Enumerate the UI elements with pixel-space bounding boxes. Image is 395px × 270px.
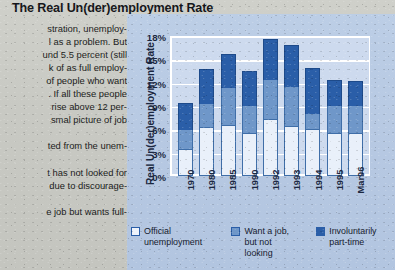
bar-segment	[284, 126, 299, 176]
article-line: und 5.5 percent (still	[0, 48, 127, 61]
x-label-column: Mar96	[346, 178, 367, 226]
bar-segment	[178, 130, 193, 149]
x-axis-tick-label: 1994	[314, 170, 324, 191]
bar-segment	[199, 104, 214, 127]
legend-label: Want a job, but not looking	[244, 226, 289, 259]
article-line-break	[0, 126, 127, 139]
bar-segment	[221, 54, 236, 88]
bar-segment	[348, 106, 363, 133]
y-axis-tick-label: 9%	[152, 102, 170, 113]
y-axis-tick-label: 15%	[147, 55, 170, 66]
bar-segment	[242, 106, 257, 133]
article-line: due to discourage-	[0, 179, 127, 192]
chart-panel: Real Un(der)employment Rate 0%3%6%9%12%1…	[127, 14, 395, 270]
legend-item: Official unemployment	[129, 226, 231, 270]
article-line: k of as full employ-	[0, 61, 127, 74]
bar-segment	[327, 80, 342, 106]
y-axis-tick-label: 18%	[147, 32, 170, 43]
x-axis-tick-label: 1980	[207, 170, 217, 191]
bar-column	[302, 37, 323, 176]
legend-item: Want a job, but not looking	[231, 226, 316, 270]
y-axis-tick-label: 6%	[152, 125, 170, 136]
article-line: l as a problem. But	[0, 35, 127, 48]
bar-segment	[221, 88, 236, 125]
stacked-bar	[327, 80, 342, 176]
stacked-bar	[178, 103, 193, 176]
stacked-bar	[242, 71, 257, 176]
stacked-bar	[284, 45, 299, 176]
article-line: smal picture of job	[0, 113, 127, 126]
x-label-column: 1994	[303, 178, 324, 226]
legend-swatch	[316, 227, 325, 236]
page-title: The Real Un(der)employment Rate	[12, 1, 213, 15]
bar-segment	[263, 119, 278, 176]
x-label-column: 1993	[282, 178, 303, 226]
bar-segment	[284, 45, 299, 87]
legend-label: Involuntarily part-time	[329, 226, 376, 248]
article-line: e job but wants full-	[0, 205, 127, 218]
bar-segment	[199, 127, 214, 176]
article-line-break	[0, 192, 127, 205]
x-axis-tick-label: 1990	[250, 170, 260, 191]
bar-column	[196, 37, 217, 176]
y-axis-tick-label: 0%	[152, 172, 170, 183]
legend-swatch	[131, 227, 140, 236]
x-axis-tick-label: 1993	[292, 170, 302, 191]
chart-bars	[170, 37, 369, 176]
bar-column	[324, 37, 345, 176]
bar-column	[260, 37, 281, 176]
chart-legend: Official unemploymentWant a job, but not…	[129, 226, 395, 270]
x-label-column: 1992	[260, 178, 281, 226]
x-label-column: 1980	[196, 178, 217, 226]
bar-segment	[221, 125, 236, 176]
bar-segment	[263, 39, 278, 80]
x-axis-tick-label: Mar96	[356, 167, 366, 194]
bar-column	[239, 37, 260, 176]
x-label-column: 1995	[324, 178, 345, 226]
article-line: of people who want	[0, 74, 127, 87]
bar-column	[281, 37, 302, 176]
legend-item: Involuntarily part-time	[316, 226, 395, 270]
bar-segment	[348, 81, 363, 106]
x-axis-tick-label: 1995	[335, 170, 345, 191]
stacked-bar	[263, 39, 278, 176]
bar-segment	[199, 69, 214, 103]
legend-swatch	[231, 227, 240, 236]
article-line: rise above 12 per-	[0, 100, 127, 113]
bar-column	[345, 37, 366, 176]
legend-label: Official unemployment	[144, 226, 202, 248]
x-axis-tick-label: 1970	[186, 170, 196, 191]
stacked-bar	[305, 68, 320, 176]
bar-segment	[242, 71, 257, 106]
y-axis-tick-label: 3%	[152, 148, 170, 159]
bar-segment	[305, 114, 320, 130]
article-line: t has not looked for	[0, 166, 127, 179]
stacked-bar	[348, 81, 363, 176]
bar-column	[217, 37, 238, 176]
bar-segment	[327, 106, 342, 133]
x-label-column: 1990	[239, 178, 260, 226]
bar-column	[175, 37, 196, 176]
y-axis-tick-label: 12%	[147, 78, 170, 89]
article-text-column: stration, unemploy-l as a problem. Butun…	[0, 22, 127, 218]
chart-plot-area: 0%3%6%9%12%15%18%	[170, 36, 370, 176]
x-label-column: 1970	[175, 178, 196, 226]
article-line: ted from the unem-	[0, 139, 127, 152]
x-label-column: 1985	[218, 178, 239, 226]
x-axis-labels: 19701980198519901992199319941995Mar96	[170, 178, 370, 226]
stacked-bar	[221, 54, 236, 176]
article-line: stration, unemploy-	[0, 22, 127, 35]
x-axis-tick-label: 1992	[271, 170, 281, 191]
bar-segment	[305, 68, 320, 114]
article-line: . If all these people	[0, 87, 127, 100]
article-line-break	[0, 152, 127, 165]
bar-segment	[284, 87, 299, 126]
bar-segment	[178, 103, 193, 130]
stacked-bar	[199, 69, 214, 176]
bar-segment	[263, 80, 278, 119]
x-axis-tick-label: 1985	[228, 170, 238, 191]
